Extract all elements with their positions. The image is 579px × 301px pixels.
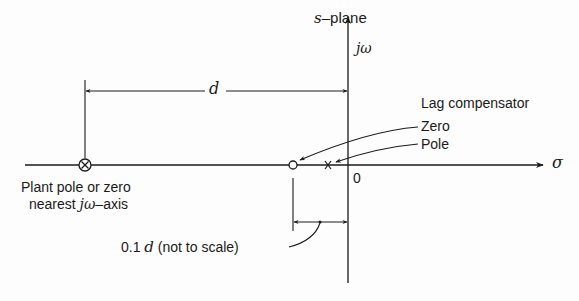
- pole-label: Pole: [421, 137, 449, 151]
- small-dimension-label: 0.1 d (not to scale): [121, 240, 239, 255]
- jw-axis-label: jω: [356, 41, 372, 55]
- lag-compensator-heading: Lag compensator: [421, 96, 529, 110]
- compensator-zero-marker: [289, 161, 297, 169]
- sigma-axis-label: σ: [552, 155, 563, 171]
- plant-label-line1: Plant pole or zero: [21, 180, 131, 194]
- nearest-text: nearest: [29, 196, 80, 212]
- s-variable: s: [314, 9, 322, 27]
- s-plane-title: s–plane: [314, 10, 367, 26]
- small-dimension-var: d: [144, 238, 154, 256]
- plant-pole-zero-marker: [79, 159, 91, 171]
- zero-label: Zero: [421, 119, 450, 133]
- plant-label-line2: nearest jω–axis: [29, 197, 128, 211]
- d-label: d: [209, 81, 219, 97]
- jw-italic: jω: [80, 196, 96, 212]
- small-dimension-note: (not to scale): [154, 239, 239, 255]
- plane-text: –plane: [322, 9, 367, 26]
- small-dimension-line: [289, 178, 347, 247]
- small-dimension-value: 0.1: [121, 239, 144, 255]
- s-plane-diagram: [0, 0, 579, 301]
- axis-text: –axis: [95, 196, 128, 212]
- origin-label: 0: [353, 171, 361, 185]
